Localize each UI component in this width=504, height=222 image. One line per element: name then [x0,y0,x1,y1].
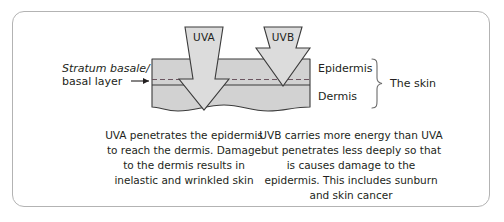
stratum-basale-label: Stratum basale/basal layer [62,62,154,89]
dermis-label: Dermis [318,90,357,103]
uvb-caption: UVB carries more energy than UVA but pen… [258,128,444,203]
uva-arrow-label: UVA [186,31,222,43]
stratum-basale-label-plain: basal layer [62,75,122,88]
uva-caption: UVA penetrates the epidermis to reach th… [104,128,264,188]
figure-canvas: UVA UVB Stratum basale/basal layer Epide… [0,0,504,222]
epidermis-label: Epidermis [318,62,373,75]
the-skin-brace [372,59,382,108]
uvb-arrow-label: UVB [265,31,301,43]
stratum-basale-label-italic: Stratum basale/ [62,62,150,75]
the-skin-label: The skin [390,77,436,90]
